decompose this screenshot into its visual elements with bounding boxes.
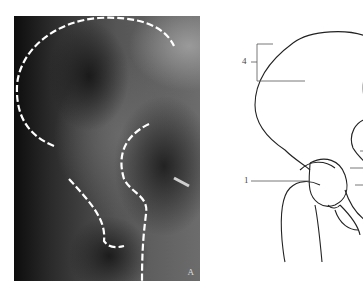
label-4: 4 — [242, 56, 247, 66]
ilium-outline — [14, 16, 200, 281]
radiograph-panel: A — [14, 16, 200, 281]
line-drawing-panel: 4 1 — [210, 0, 363, 293]
panel-marker: A — [188, 267, 195, 277]
pelvis-line-drawing — [210, 0, 363, 293]
label-1: 1 — [244, 175, 249, 185]
